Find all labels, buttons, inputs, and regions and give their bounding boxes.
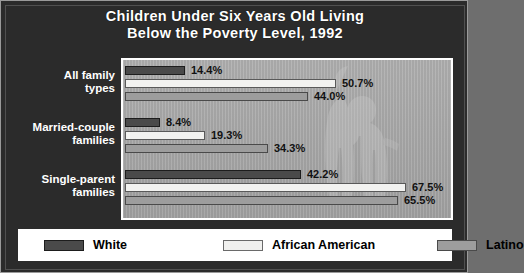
category-label-line-1: Married-couple	[0, 121, 115, 134]
chart-title-line-2: Below the Poverty Level, 1992	[1, 25, 469, 42]
bar-married-couple-families-african-american	[125, 131, 205, 140]
white-swatch-icon	[44, 240, 84, 251]
category-label-line-2: types	[0, 82, 115, 95]
bar-value-all-family-types-latino: 44.0%	[314, 92, 345, 101]
bar-single-parent-families-white	[125, 170, 301, 179]
category-label-married-couple-families: Married-couple families	[0, 121, 115, 146]
bars-container: 14.4% 50.7% 44.0% 8.4% 19.3% 34.3% 42.2%	[125, 60, 451, 218]
legend-label-white: White	[93, 238, 127, 252]
bar-all-family-types-african-american	[125, 79, 336, 88]
chart-legend: White African American Latino	[18, 229, 452, 261]
plot-area: 14.4% 50.7% 44.0% 8.4% 19.3% 34.3% 42.2%	[121, 58, 453, 220]
bar-married-couple-families-white	[125, 118, 160, 127]
bar-value-all-family-types-white: 14.4%	[191, 66, 222, 75]
bar-value-single-parent-families-african-american: 67.5%	[412, 183, 443, 192]
legend-label-african-american: African American	[272, 238, 375, 252]
bar-value-married-couple-families-white: 8.4%	[166, 118, 191, 127]
chart-title-line-1: Children Under Six Years Old Living	[1, 8, 469, 25]
bar-married-couple-families-latino	[125, 144, 268, 153]
category-label-single-parent-families: Single-parent families	[0, 173, 115, 198]
bar-value-single-parent-families-white: 42.2%	[307, 170, 338, 179]
legend-item-african-american: African American	[223, 238, 375, 252]
category-label-line-1: Single-parent	[0, 173, 115, 186]
bar-value-married-couple-families-latino: 34.3%	[274, 144, 305, 153]
legend-label-latino: Latino	[486, 238, 524, 252]
bar-all-family-types-white	[125, 66, 185, 75]
category-label-line-1: All family	[0, 69, 115, 82]
category-label-line-2: families	[0, 186, 115, 199]
chart-title: Children Under Six Years Old Living Belo…	[1, 8, 469, 42]
legend-item-latino: Latino	[437, 238, 524, 252]
bar-value-married-couple-families-african-american: 19.3%	[211, 131, 242, 140]
legend-item-white: White	[44, 238, 127, 252]
category-label-line-2: families	[0, 134, 115, 147]
bar-value-all-family-types-african-american: 50.7%	[342, 79, 373, 88]
category-label-all-family-types: All family types	[0, 69, 115, 94]
bar-single-parent-families-african-american	[125, 183, 406, 192]
african-american-swatch-icon	[223, 240, 263, 251]
latino-swatch-icon	[437, 240, 477, 251]
bar-single-parent-families-latino	[125, 196, 398, 205]
bar-value-single-parent-families-latino: 65.5%	[404, 196, 435, 205]
bar-all-family-types-latino	[125, 92, 308, 101]
